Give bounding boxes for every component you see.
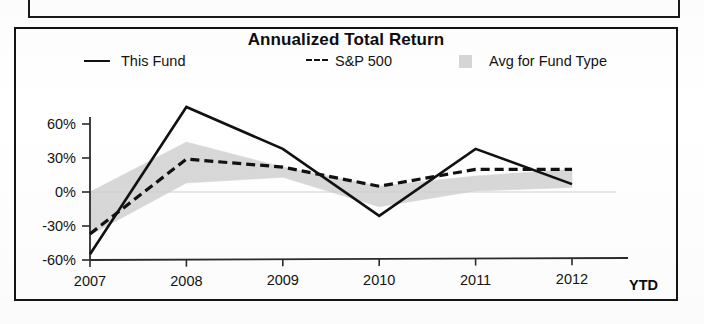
y-tick-label: 30% [47,150,76,166]
x-axis-line [90,258,628,260]
x-tick-label: 2010 [363,272,395,288]
x-axis-ytd-label: YTD [629,277,658,293]
avg-fund-type-band [90,142,572,235]
y-tick-label: -60% [42,252,76,268]
annualized-total-return-chart: Annualized Total Return This Fund S&P 50… [14,27,678,301]
chart-plot-svg: 60%30%0%-30%-60%200720082009201020112012 [16,29,680,303]
partial-panel-above [28,0,680,18]
x-tick-label: 2007 [74,273,106,289]
x-tick-label: 2009 [267,272,299,288]
x-tick-label: 2008 [170,273,202,289]
x-tick-label: 2011 [460,272,491,288]
y-tick-label: 60% [47,116,76,132]
y-tick-label: -30% [42,218,76,234]
x-tick-label: 2012 [556,271,588,287]
plot-area: 60%30%0%-30%-60%200720082009201020112012 [16,29,680,303]
y-tick-label: 0% [55,184,76,200]
